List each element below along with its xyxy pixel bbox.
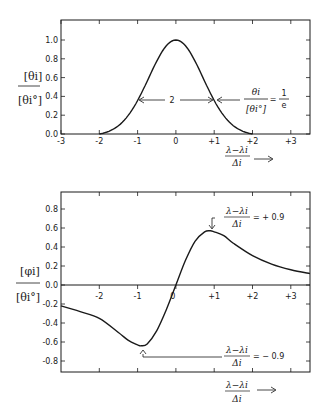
- x-tick-label: +2: [247, 137, 259, 146]
- y-tick-label: 0.6: [45, 74, 58, 83]
- x-tick-label: +3: [285, 292, 297, 301]
- x-tick-label: -3: [57, 137, 65, 146]
- eq-den: [θi°]: [246, 104, 266, 114]
- y-tick-label: 0.8: [45, 205, 58, 214]
- bottom-x-axis-label: λ−λi Δi: [225, 380, 276, 404]
- bottom-curve: [61, 231, 310, 346]
- y-tick-label: -0.2: [42, 300, 58, 309]
- x-tick-label: -2: [95, 137, 103, 146]
- y-tick-label: 0.2: [45, 111, 58, 120]
- svg-text:λ−λi: λ−λi: [225, 380, 248, 390]
- width-annotation: 2: [139, 96, 240, 105]
- svg-text:Δi: Δi: [231, 358, 241, 368]
- svg-text:λ−λi: λ−λi: [225, 145, 248, 155]
- y-tick-label: 0.8: [45, 55, 58, 64]
- eq-rhs-num: 1: [281, 89, 286, 98]
- svg-text:[φi]: [φi]: [20, 265, 40, 278]
- x-tick-label: +2: [247, 292, 259, 301]
- x-tick-label: 0: [173, 137, 178, 146]
- svg-text:λ−λi: λ−λi: [225, 206, 248, 216]
- y-tick-label: 0.4: [45, 92, 58, 101]
- y-tick-label: -0.8: [42, 357, 58, 366]
- eq-num: θi: [252, 87, 260, 97]
- y-tick-label: -0.4: [42, 319, 58, 328]
- figure: -3-2-10+1+2+3 0.00.20.40.60.81.0 2 θi [θ…: [0, 0, 326, 416]
- y-tick-label: 0.0: [45, 130, 58, 139]
- svg-text:Δi: Δi: [231, 394, 241, 404]
- top-plot: -3-2-10+1+2+3 0.00.20.40.60.81.0 2 θi [θ…: [18, 20, 310, 168]
- x-tick-label: +1: [208, 137, 220, 146]
- y-tick-label: 0.0: [45, 281, 58, 290]
- y-tick-label: 0.2: [45, 262, 58, 271]
- x-tick-label: -1: [134, 137, 142, 146]
- top-y-axis-label: [θi] [θi°]: [18, 70, 42, 107]
- svg-text:Δi: Δi: [231, 219, 241, 229]
- eq-sign: =: [270, 95, 277, 104]
- top-curve: [99, 40, 252, 134]
- svg-text:[θi°]: [θi°]: [18, 94, 42, 107]
- x-tick-label: -2: [95, 292, 103, 301]
- bottom-y-axis-label: [φi] [θi°]: [16, 265, 40, 304]
- x-tick-label: +3: [285, 137, 297, 146]
- x-tick-label: -1: [134, 292, 142, 301]
- one-over-e-annotation: θi [θi°] = 1 e: [244, 87, 289, 114]
- y-tick-label: 1.0: [45, 36, 58, 45]
- top-x-axis-label: λ−λi Δi: [225, 145, 273, 168]
- x-tick-label: +1: [208, 292, 220, 301]
- y-tick-label: 0.4: [45, 243, 58, 252]
- max-annotation: λ−λi Δi = + 0.9: [209, 206, 284, 229]
- y-tick-label: 0.6: [45, 224, 58, 233]
- svg-text:[θi°]: [θi°]: [16, 291, 40, 304]
- svg-text:= + 0.9: = + 0.9: [253, 213, 284, 222]
- y-tick-label: -0.6: [42, 338, 58, 347]
- bottom-plot: -2-10+1+2+3 0.80.60.40.20.0-0.2-0.4-0.6-…: [16, 192, 310, 404]
- svg-text:= − 0.9: = − 0.9: [253, 352, 284, 361]
- width-label: 2: [169, 96, 174, 105]
- top-x-ticks: -3-2-10+1+2+3: [57, 20, 297, 146]
- min-annotation: λ−λi Δi = − 0.9: [140, 345, 284, 368]
- top-y-ticks: 0.00.20.40.60.81.0: [45, 36, 310, 139]
- eq-rhs-den: e: [282, 101, 287, 110]
- svg-text:[θi]: [θi]: [24, 70, 43, 83]
- svg-text:λ−λi: λ−λi: [225, 345, 248, 355]
- top-plot-frame: [61, 20, 310, 134]
- svg-text:Δi: Δi: [231, 158, 241, 168]
